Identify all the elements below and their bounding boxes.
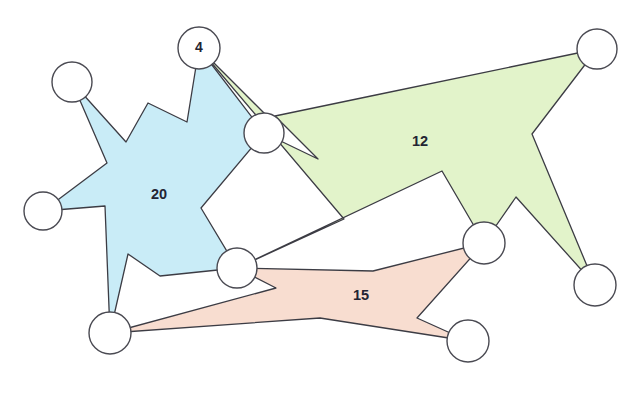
regions-layer [43, 48, 597, 341]
region-label-pink: 15 [353, 287, 369, 303]
node-center-bottom[interactable] [217, 248, 257, 288]
node-top-right[interactable] [577, 29, 617, 69]
node-right-middle[interactable] [463, 222, 505, 264]
region-label-green: 12 [412, 133, 428, 149]
hypergraph-svg: 4 20 12 15 [0, 0, 640, 394]
diagram-canvas: 4 20 12 15 [0, 0, 640, 394]
node-left[interactable] [24, 192, 62, 230]
node-bottom-right[interactable] [447, 320, 489, 362]
node-middle[interactable] [244, 113, 284, 153]
node-right-bottom[interactable] [574, 264, 616, 306]
node-top-left[interactable] [52, 62, 92, 102]
region-label-blue: 20 [151, 186, 167, 202]
node-label-four: 4 [195, 39, 203, 55]
node-bottom-left[interactable] [89, 312, 131, 354]
region-green[interactable] [199, 48, 597, 285]
